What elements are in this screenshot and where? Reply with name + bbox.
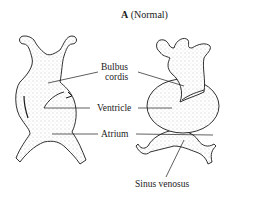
heart-diagram (0, 0, 254, 201)
panel-caption: (Normal) (131, 9, 168, 20)
label-atrium: Atrium (101, 129, 128, 139)
label-sinus-venosus: Sinus venosus (135, 179, 189, 189)
right-heart-illustration (136, 38, 219, 164)
label-ventricle: Ventricle (97, 103, 131, 113)
panel-letter: A (121, 9, 128, 20)
label-bulbus-cordis-line2: cordis (105, 72, 128, 82)
left-heart-illustration (16, 36, 86, 164)
label-bulbus-cordis-line1: Bulbus (101, 62, 128, 72)
figure-panel-title: A (Normal) (121, 9, 168, 20)
